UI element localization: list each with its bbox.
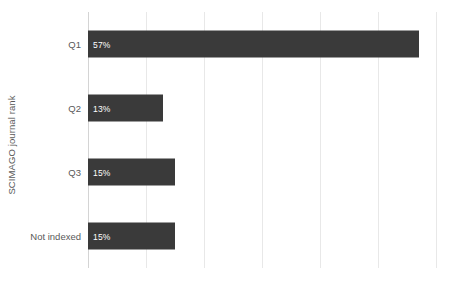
- bar-value-label: 15%: [88, 231, 111, 241]
- category-label: Q3: [68, 167, 81, 178]
- category-label: Q2: [68, 103, 81, 114]
- bar-value-label: 13%: [88, 103, 111, 113]
- category-label: Not indexed: [30, 231, 81, 242]
- category-label: Q1: [68, 39, 81, 50]
- bar-row: Q1 57%: [88, 12, 436, 76]
- bar-row: Q3 15%: [88, 140, 436, 204]
- bar-value-label: 15%: [88, 167, 111, 177]
- bar[interactable]: 15%: [88, 223, 175, 250]
- bar[interactable]: 15%: [88, 159, 175, 186]
- bar-chart: SCIMAGO journal rank Q1 57% Q2 13% Q3 15…: [0, 0, 455, 290]
- plot-area: Q1 57% Q2 13% Q3 15% Not indexed 15%: [88, 12, 436, 268]
- bar-row: Q2 13%: [88, 76, 436, 140]
- bar[interactable]: 57%: [88, 31, 419, 58]
- gridline: [436, 12, 437, 268]
- bar[interactable]: 13%: [88, 95, 163, 122]
- bar-row: Not indexed 15%: [88, 204, 436, 268]
- y-axis-title: SCIMAGO journal rank: [0, 0, 22, 290]
- bar-value-label: 57%: [88, 39, 111, 49]
